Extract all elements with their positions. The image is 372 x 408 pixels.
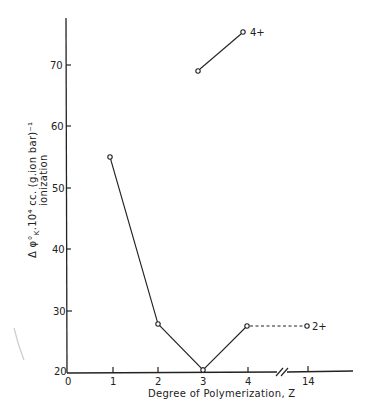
x-axis-after-break <box>287 371 353 372</box>
x-tick-14: 14 <box>302 376 315 387</box>
marker-4plus-z3 <box>196 69 200 73</box>
y-axis <box>66 18 67 373</box>
x-tick-3: 3 <box>200 376 206 387</box>
y-tick-50: 50 <box>52 183 65 194</box>
marker-2plus-z14 <box>305 324 309 328</box>
series-label-2plus: 2+ <box>312 321 327 332</box>
y-axis-title: Δ φ°K.10⁴ cc. (g.ion bar)⁻¹ ionization <box>27 122 49 258</box>
y-title-units: .10⁴ cc. (g.ion bar)⁻¹ <box>27 122 38 231</box>
x-tick-4: 4 <box>245 376 251 387</box>
marker-2plus-z4 <box>245 324 249 328</box>
x-tick-1: 1 <box>110 376 116 387</box>
scan-smudge <box>14 328 24 360</box>
y-tick-labels: 70 60 50 40 30 20 <box>50 60 67 377</box>
x-tick-labels: 0 1 2 3 4 14 <box>65 376 315 387</box>
marker-2plus-z3 <box>201 368 205 372</box>
y-tick-70: 70 <box>50 60 63 71</box>
x-axis <box>67 372 277 373</box>
y-title-ionization: ionization <box>38 154 49 206</box>
marker-2plus-z1 <box>108 155 112 159</box>
y-tick-60: 60 <box>51 121 64 132</box>
x-axis-title: Degree of Polymerization, Z <box>148 388 296 399</box>
x-tick-2: 2 <box>155 376 161 387</box>
series-label-4plus: 4+ <box>250 27 265 38</box>
y-tick-30: 30 <box>53 306 66 317</box>
x-tick-0: 0 <box>65 376 71 387</box>
marker-4plus-z4 <box>241 30 245 34</box>
data-markers <box>108 30 309 372</box>
chart-canvas: 70 60 50 40 30 20 0 1 2 3 4 14 Degree of… <box>0 0 372 408</box>
series-2plus-line <box>110 157 247 370</box>
axis-break-icon <box>276 368 288 376</box>
marker-2plus-z2 <box>156 322 160 326</box>
series-4plus-line <box>200 34 241 69</box>
y-tick-40: 40 <box>52 244 65 255</box>
y-title-delta-phi: Δ φ° <box>27 235 38 258</box>
